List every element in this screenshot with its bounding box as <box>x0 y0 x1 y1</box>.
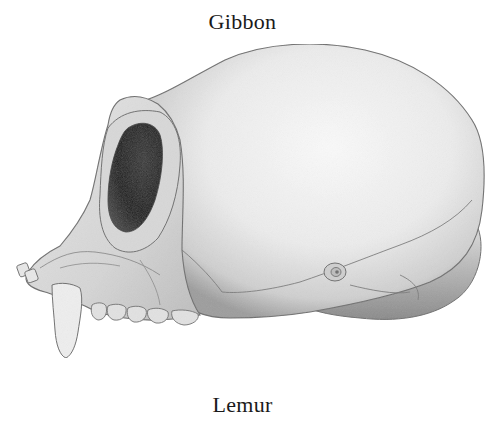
bottom-caption: Lemur <box>0 392 485 418</box>
canine <box>52 283 82 358</box>
skull-drawing <box>16 44 484 358</box>
cranium <box>140 44 484 318</box>
top-caption: Gibbon <box>0 9 485 35</box>
skull-illustration <box>0 40 485 380</box>
ear-opening <box>324 263 346 281</box>
